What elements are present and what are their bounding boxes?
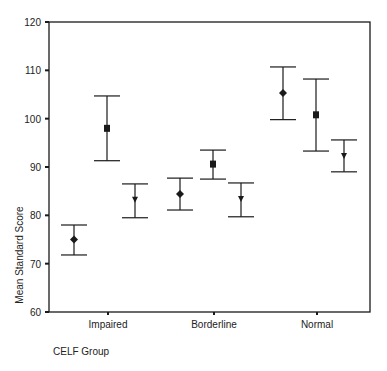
error-bar-chart: 60708090100110120 ImpairedBorderlineNorm… <box>0 0 387 371</box>
y-tick-label: 110 <box>25 65 41 76</box>
square-marker-icon <box>313 111 319 118</box>
error-bar <box>303 79 329 151</box>
error-bar <box>270 67 296 120</box>
y-tick-label: 90 <box>30 162 42 173</box>
x-axis-title: CELF Group <box>53 346 110 357</box>
error-bar <box>331 140 357 172</box>
y-tick-label: 80 <box>30 210 42 221</box>
diamond-marker-icon <box>70 236 78 244</box>
diamond-marker-icon <box>176 190 184 198</box>
plot-frame <box>49 22 370 312</box>
x-tick-label: Normal <box>301 319 333 330</box>
plot-border <box>49 22 370 312</box>
error-bar <box>200 150 226 179</box>
error-bar <box>122 184 148 218</box>
error-bar <box>228 183 254 217</box>
y-axis: 60708090100110120 <box>24 17 49 318</box>
triangle-down-marker-icon <box>238 196 244 202</box>
error-bar <box>167 178 193 210</box>
y-tick-label: 70 <box>30 259 42 270</box>
square-marker-icon <box>104 125 110 132</box>
y-tick-label: 100 <box>24 114 41 125</box>
y-tick-label: 60 <box>30 307 42 318</box>
triangle-down-marker-icon <box>341 153 347 159</box>
error-bar <box>61 225 87 255</box>
triangle-down-marker-icon <box>132 197 138 203</box>
error-bar <box>94 96 120 161</box>
y-axis-title: Mean Standard Score <box>14 206 25 304</box>
diamond-marker-icon <box>279 89 287 97</box>
x-axis: ImpairedBorderlineNormal <box>89 312 334 330</box>
y-tick-label: 120 <box>24 17 41 28</box>
error-bars <box>61 67 357 255</box>
x-tick-label: Impaired <box>89 319 128 330</box>
square-marker-icon <box>210 161 216 168</box>
x-tick-label: Borderline <box>191 319 237 330</box>
